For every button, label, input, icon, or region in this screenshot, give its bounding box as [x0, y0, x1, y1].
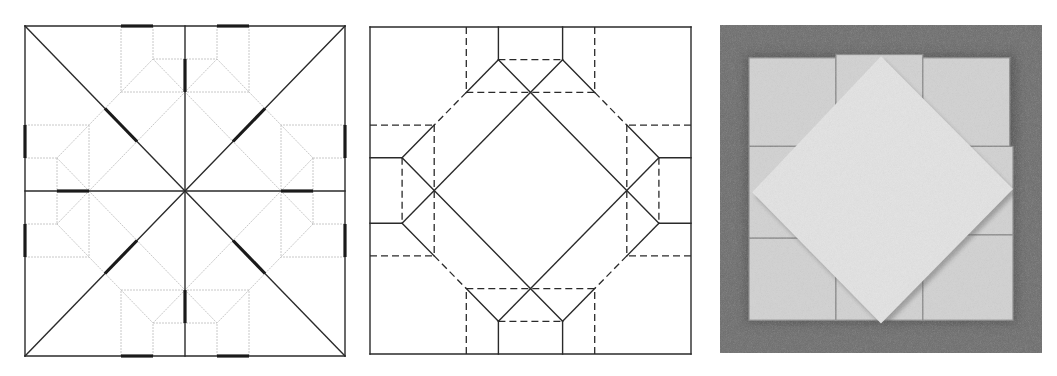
fold-line-diagram: [370, 27, 691, 354]
mountain-fold-line: [402, 223, 434, 256]
light-crease-line: [121, 59, 153, 92]
mountain-fold-line: [466, 289, 498, 322]
mountain-fold-line: [627, 125, 659, 158]
mountain-fold-line: [498, 60, 659, 224]
light-crease-line: [121, 290, 153, 323]
mountain-fold-line: [402, 60, 562, 224]
folded-model-photo: [720, 25, 1042, 353]
light-crease-line: [57, 224, 89, 257]
reference-mark: [233, 109, 265, 142]
light-crease-line: [217, 290, 249, 323]
fold-diagram-panel: [370, 27, 691, 354]
reference-mark: [105, 241, 137, 274]
figure-description: Origami crease pattern, fold-line diagra…: [0, 0, 1, 1]
crease-pattern-diagram: [25, 26, 345, 356]
mountain-fold-line: [498, 158, 659, 321]
light-crease-line: [281, 125, 313, 158]
crease-pattern-panel: [25, 26, 345, 356]
valley-fold-line: [434, 92, 466, 125]
mountain-fold-line: [563, 60, 595, 93]
valley-fold-line: [595, 92, 627, 125]
valley-fold-line: [434, 256, 466, 289]
mountain-fold-line: [402, 158, 562, 321]
mountain-fold-line: [402, 125, 434, 158]
mountain-fold-line: [627, 223, 659, 256]
mountain-fold-line: [563, 289, 595, 322]
reference-mark: [233, 241, 265, 274]
reference-mark: [105, 109, 137, 142]
photo-content: [720, 25, 1042, 353]
light-crease-line: [57, 125, 89, 158]
mountain-fold-line: [466, 60, 498, 93]
folded-model-photo-panel: [720, 25, 1042, 353]
valley-fold-line: [595, 256, 627, 289]
light-crease-line: [281, 224, 313, 257]
light-crease-line: [217, 59, 249, 92]
